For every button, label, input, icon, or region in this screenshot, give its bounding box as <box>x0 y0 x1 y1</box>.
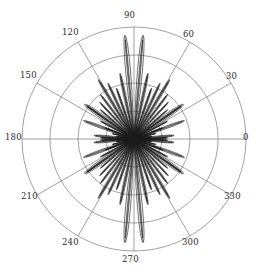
polar-plot-canvas <box>0 0 265 273</box>
angular-tick-label-90: 90 <box>124 11 135 20</box>
angular-tick-label-30: 30 <box>226 72 237 81</box>
angular-tick-label-120: 120 <box>62 28 79 37</box>
angular-tick-label-60: 60 <box>183 30 194 39</box>
angular-tick-label-0: 0 <box>243 133 249 142</box>
angular-tick-label-180: 180 <box>5 133 22 142</box>
angular-tick-label-150: 150 <box>20 71 37 80</box>
angular-tick-label-270: 270 <box>122 255 139 264</box>
angular-tick-label-240: 240 <box>62 238 79 247</box>
angular-tick-label-210: 210 <box>21 192 38 201</box>
polar-plot-figure: 0 30 60 90 120 150 180 210 240 270 300 3… <box>0 0 265 273</box>
angular-tick-label-330: 330 <box>224 192 241 201</box>
angular-tick-label-300: 300 <box>182 238 199 247</box>
